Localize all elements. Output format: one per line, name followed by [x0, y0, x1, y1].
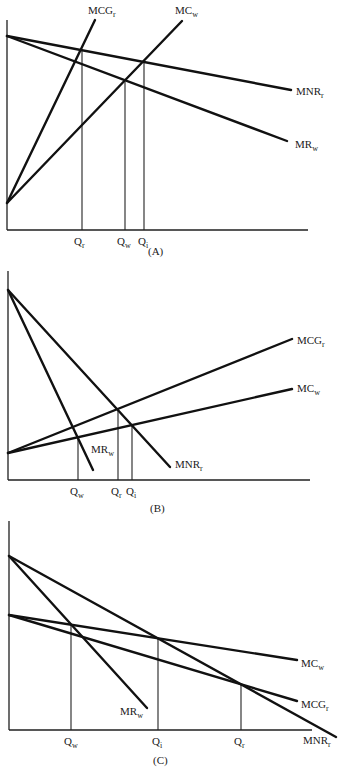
curve-label-mnrr: MNRr — [303, 734, 331, 749]
curve-mnrr — [7, 36, 291, 90]
curve-mcgr — [8, 339, 292, 453]
quantity-label-qw: Qw — [64, 735, 78, 750]
panel-a: QrQwQiMNRrMRwMCGrMCw(A) — [7, 4, 324, 258]
curve-mcgr — [9, 615, 297, 701]
curve-label-mrw: MRw — [91, 443, 114, 458]
panel-caption: (B) — [150, 502, 165, 515]
curve-label-mnrr: MNRr — [296, 85, 324, 100]
curve-label-mcgr: MCGr — [297, 334, 325, 349]
curve-label-mnrr: MNRr — [175, 458, 203, 473]
curve-mrw — [7, 36, 287, 141]
quantity-label-qi: Qi — [126, 485, 137, 500]
curve-label-mcw: MCw — [175, 4, 198, 19]
quantity-label-qr: Qr — [234, 735, 245, 750]
quantity-label-qi: Qi — [152, 735, 163, 750]
panel-c: QwQiQrMRwMNRrMCwMCGr(C) — [9, 521, 336, 767]
quantity-label-qr: Qr — [111, 485, 122, 500]
curve-label-mrw: MRw — [295, 138, 318, 153]
curve-label-mcgr: MCGr — [301, 698, 329, 713]
quantity-label-qr: Qr — [74, 235, 85, 250]
curve-label-mrw: MRw — [120, 705, 143, 720]
curve-label-mcw: MCw — [301, 657, 324, 672]
curve-mnrr — [9, 556, 336, 737]
curve-mcw — [9, 615, 297, 660]
quantity-label-qw: Qw — [70, 485, 84, 500]
curve-mrw — [9, 556, 147, 708]
curve-label-mcw: MCw — [297, 382, 320, 397]
curve-mcw — [7, 21, 182, 203]
panel-b: QwQrQiMRwMNRrMCGrMCw(B) — [8, 271, 325, 515]
curve-mnrr — [8, 290, 170, 467]
quantity-label-qw: Qw — [117, 235, 131, 250]
panel-caption: (C) — [153, 754, 168, 767]
panel-caption: (A) — [148, 245, 164, 258]
economic-diagram: QrQwQiMNRrMRwMCGrMCw(A) QwQrQiMRwMNRrMCG… — [0, 0, 345, 774]
curve-label-mcgr: MCGr — [88, 4, 116, 19]
